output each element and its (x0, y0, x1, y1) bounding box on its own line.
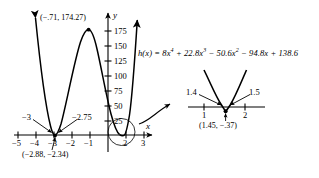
bracket-right-label: −2.75 (72, 113, 92, 122)
min-left-point-label: (−2.88, −2.34) (22, 151, 68, 159)
inset-x-tick-1: 1 (202, 111, 206, 120)
max-point-label: (−.71, 174.27) (40, 14, 86, 22)
inset-x-tick-2: 2 (243, 111, 247, 120)
x-tick-neg1: −1 (84, 139, 93, 148)
x-tick-3: 3 (141, 139, 145, 148)
y-tick-150: 150 (114, 42, 127, 51)
y-tick-125: 125 (114, 57, 127, 66)
x-tick-neg5: −5 (12, 139, 21, 148)
x-tick-neg3: −3 (48, 139, 57, 148)
y-axis-label: y (113, 11, 117, 20)
inset-bracket-left-label: 1.4 (186, 88, 197, 97)
equation-label: h(x) = 8x4 + 22.8x3 − 50.6x2 − 94.8x + 1… (138, 47, 298, 57)
bracket-left-label: −3 (22, 113, 31, 122)
y-tick-175: 175 (114, 27, 127, 36)
y-tick-50: 50 (114, 102, 123, 111)
x-axis-label: x (146, 122, 150, 131)
x-tick-2: 2 (123, 139, 127, 148)
inset-connector-arrow (139, 104, 170, 124)
y-tick-25: 25 (114, 117, 123, 126)
x-tick-neg4: −4 (30, 139, 39, 148)
annotation-leaders (33, 28, 91, 150)
inset-bracket-right-label: 1.5 (249, 88, 260, 97)
figure-container: y x 175 150 125 100 75 50 25 −5 −4 −3 −2… (0, 0, 319, 178)
inset-point-label: (1.45, −.37) (199, 122, 237, 130)
y-tick-100: 100 (114, 72, 127, 81)
x-tick-neg2: −2 (66, 139, 75, 148)
y-tick-75: 75 (114, 87, 123, 96)
